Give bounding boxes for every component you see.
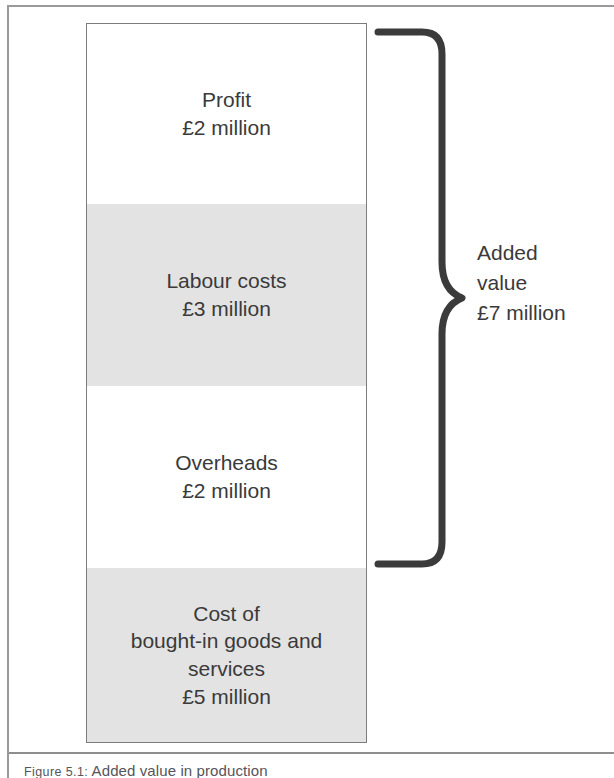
- band-title-bought-in-goods-line3: services: [188, 655, 265, 683]
- page-frame-left-rule-lower: [7, 752, 9, 778]
- figure-caption: Figure 5.1: Added value in production: [24, 762, 268, 778]
- added-value-brace-icon: [370, 22, 480, 574]
- caption-divider-rule: [7, 752, 614, 754]
- stack-band-overheads: Overheads £2 million: [87, 386, 366, 568]
- annotation-line-1: Added: [477, 238, 612, 268]
- stack-band-profit: Profit £2 million: [87, 24, 366, 204]
- figure-caption-text: Added value in production: [92, 762, 268, 778]
- band-title-bought-in-goods-line2: bought-in goods and: [131, 627, 323, 655]
- value-stack-chart: Profit £2 million Labour costs £3 millio…: [86, 23, 367, 743]
- added-value-annotation: Added value £7 million: [477, 238, 612, 327]
- band-amount-bought-in-goods: £5 million: [182, 683, 271, 711]
- band-title-overheads: Overheads: [175, 449, 278, 477]
- figure-page: Profit £2 million Labour costs £3 millio…: [0, 0, 614, 778]
- figure-caption-label: Figure 5.1:: [24, 765, 88, 778]
- band-amount-profit: £2 million: [182, 114, 271, 142]
- page-frame-top-rule: [7, 5, 614, 7]
- annotation-line-3: £7 million: [477, 298, 612, 328]
- band-title-profit: Profit: [202, 86, 251, 114]
- annotation-line-2: value: [477, 268, 612, 298]
- band-amount-overheads: £2 million: [182, 477, 271, 505]
- band-amount-labour-costs: £3 million: [182, 295, 271, 323]
- stack-band-labour-costs: Labour costs £3 million: [87, 204, 366, 386]
- band-title-labour-costs: Labour costs: [166, 267, 286, 295]
- stack-band-bought-in-goods: Cost of bought-in goods and services £5 …: [87, 568, 366, 742]
- page-frame-left-rule: [7, 5, 9, 753]
- band-title-bought-in-goods-line1: Cost of: [193, 600, 260, 628]
